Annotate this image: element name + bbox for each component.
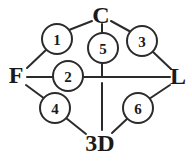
edge-e-f-n4 bbox=[26, 85, 45, 99]
node-4[interactable]: 4 bbox=[40, 93, 70, 123]
node-2[interactable]: 2 bbox=[53, 61, 83, 91]
edge-e-n4-3d bbox=[66, 118, 86, 134]
node-label-5: 5 bbox=[99, 41, 107, 57]
node-label-3: 3 bbox=[138, 34, 146, 50]
node-6[interactable]: 6 bbox=[123, 93, 153, 123]
node-label-6: 6 bbox=[134, 101, 142, 117]
edge-e-c-n1 bbox=[69, 21, 92, 30]
node-label-1: 1 bbox=[53, 32, 61, 48]
edge-e-n3-l bbox=[152, 51, 171, 69]
diagram-canvas: 153246 CFL3D bbox=[0, 0, 192, 161]
node-label-2: 2 bbox=[64, 69, 72, 85]
node-label-4: 4 bbox=[51, 101, 59, 117]
edge-e-n1-f bbox=[27, 50, 46, 68]
terminals-group: CFL3D bbox=[9, 2, 186, 156]
terminal-label-3d: 3D bbox=[85, 130, 114, 156]
diagram-svg: 153246 CFL3D bbox=[0, 0, 192, 161]
node-5[interactable]: 5 bbox=[88, 33, 118, 63]
node-3[interactable]: 3 bbox=[127, 26, 157, 56]
node-1[interactable]: 1 bbox=[42, 24, 72, 54]
edge-e-c-n3 bbox=[111, 21, 131, 32]
terminal-label-f: F bbox=[9, 62, 24, 88]
terminal-label-c: C bbox=[92, 2, 109, 28]
terminal-label-l: L bbox=[170, 63, 186, 89]
edge-e-l-n6 bbox=[149, 85, 170, 99]
nodes-group: 153246 bbox=[40, 24, 157, 123]
